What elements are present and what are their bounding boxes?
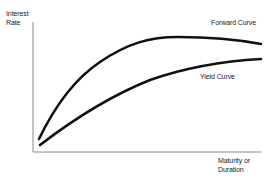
forward-curve-label: Forward Curve <box>211 19 256 28</box>
yield-curve-label: Yield Curve <box>200 73 235 82</box>
chart-figure: Interest Rate Maturity or Duration Forwa… <box>0 0 277 178</box>
x-axis-label: Maturity or Duration <box>218 157 250 174</box>
x-axis-label-line1: Maturity or <box>218 157 250 166</box>
yield-curve-line <box>40 59 261 145</box>
x-axis-label-line2: Duration <box>218 166 250 175</box>
y-axis-label-line2: Rate <box>6 19 29 28</box>
y-axis-label-line1: Interest <box>6 10 29 19</box>
y-axis-label: Interest Rate <box>6 10 29 27</box>
forward-curve-line <box>39 37 261 139</box>
